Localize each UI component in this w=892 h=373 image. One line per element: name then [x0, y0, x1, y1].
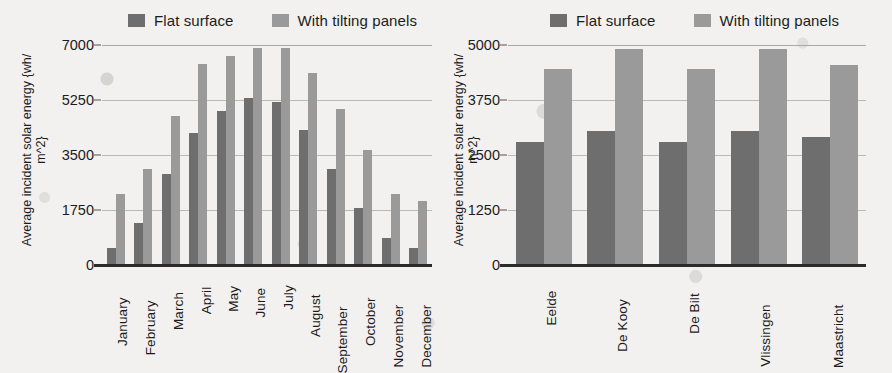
- bar: [134, 223, 143, 265]
- bar: [308, 73, 317, 265]
- bar: [731, 131, 759, 265]
- x-label-cell: July: [267, 271, 295, 357]
- legend-swatch-flat-surface: [550, 14, 567, 27]
- x-axis-label: October: [363, 297, 378, 346]
- bar: [759, 49, 787, 265]
- legend-monthly: Flat surface With tilting panels: [128, 12, 417, 29]
- plot-area-stations: 01250250037505000: [508, 45, 866, 265]
- bar: [281, 48, 290, 265]
- legend-label-with-tilting-panels: With tilting panels: [298, 12, 417, 29]
- chart-stations: Flat surface With tilting panels Average…: [446, 0, 892, 359]
- x-label-cell: April: [185, 271, 213, 357]
- x-label-cell: November: [377, 271, 405, 357]
- bar-group: [580, 45, 652, 265]
- y-tick-label: 5250: [62, 92, 94, 108]
- y-tick-mark: [94, 210, 101, 211]
- bar-group: [350, 45, 378, 265]
- legend-label-with-tilting-panels: With tilting panels: [720, 12, 839, 29]
- y-tick-label: 0: [86, 257, 94, 273]
- bar: [409, 248, 418, 265]
- x-axis-label: July: [281, 285, 296, 309]
- x-axis-line-monthly: [94, 264, 432, 267]
- bar: [418, 201, 427, 265]
- bar: [659, 142, 687, 265]
- x-label-cell: October: [350, 271, 378, 357]
- bar: [253, 48, 262, 265]
- x-axis-label: August: [308, 294, 323, 337]
- y-tick-mark: [500, 45, 507, 46]
- bar-group: [322, 45, 350, 265]
- x-axis-label: September: [336, 306, 351, 373]
- bar: [354, 208, 363, 265]
- x-axis-label: Maastricht: [830, 305, 845, 368]
- legend-item-flat-surface: Flat surface: [128, 12, 234, 29]
- x-axis-label: January: [116, 297, 131, 346]
- y-tick-mark: [500, 155, 507, 156]
- chart-monthly: Flat surface With tilting panels Average…: [0, 0, 446, 359]
- y-tick-label: 3750: [468, 92, 500, 108]
- y-tick-mark: [500, 210, 507, 211]
- bar-group: [295, 45, 323, 265]
- bar: [363, 150, 372, 265]
- y-tick-label: 7000: [62, 37, 94, 53]
- bar: [244, 98, 253, 265]
- bar-groups-monthly: [102, 45, 432, 265]
- bar: [544, 69, 572, 265]
- y-tick-label: 2500: [468, 147, 500, 163]
- x-label-cell: De Bilt: [651, 271, 723, 357]
- bar: [116, 194, 125, 265]
- bar-group: [102, 45, 130, 265]
- bar: [107, 248, 116, 265]
- x-axis-label: Eelde: [544, 291, 559, 326]
- x-axis-label: April: [198, 287, 213, 315]
- y-tick-label: 1750: [62, 202, 94, 218]
- x-axis-label: December: [418, 305, 433, 368]
- x-label-cell: December: [405, 271, 433, 357]
- x-label-cell: February: [130, 271, 158, 357]
- bar: [336, 109, 345, 265]
- x-label-cell: June: [240, 271, 268, 357]
- legend-label-flat-surface: Flat surface: [576, 12, 656, 29]
- bar: [171, 116, 180, 265]
- bar-group: [405, 45, 433, 265]
- y-tick-label: 5000: [468, 37, 500, 53]
- x-axis-label: November: [391, 305, 406, 368]
- y-tick-mark: [94, 155, 101, 156]
- bar: [516, 142, 544, 265]
- x-axis-label: June: [253, 288, 268, 318]
- bar-group: [267, 45, 295, 265]
- x-label-cell: September: [322, 271, 350, 357]
- legend-swatch-with-tilting-panels: [272, 14, 289, 27]
- y-tick-mark: [94, 100, 101, 101]
- bar-group: [185, 45, 213, 265]
- bar: [143, 169, 152, 265]
- bar: [391, 194, 400, 265]
- bar: [802, 137, 830, 265]
- legend-item-with-tilting-panels: With tilting panels: [694, 12, 839, 29]
- legend-stations: Flat surface With tilting panels: [550, 12, 839, 29]
- bar: [272, 102, 281, 265]
- x-axis-label: Vlissingen: [759, 304, 774, 367]
- x-label-cell: Maastricht: [794, 271, 866, 357]
- x-label-cell: Eelde: [508, 271, 580, 357]
- x-label-cell: Vlissingen: [723, 271, 795, 357]
- x-axis-line-stations: [500, 264, 866, 267]
- x-label-cell: January: [102, 271, 130, 357]
- x-axis-label: May: [226, 286, 241, 312]
- x-label-cell: August: [295, 271, 323, 357]
- bar: [615, 49, 643, 265]
- plot-area-monthly: 01750350052507000: [102, 45, 432, 265]
- bar: [299, 130, 308, 265]
- x-axis-label: February: [143, 300, 158, 355]
- x-axis-label: March: [171, 292, 186, 330]
- bar-group: [794, 45, 866, 265]
- bar-group: [651, 45, 723, 265]
- bar: [687, 69, 715, 265]
- legend-label-flat-surface: Flat surface: [154, 12, 234, 29]
- bar: [830, 65, 858, 265]
- x-label-cell: May: [212, 271, 240, 357]
- bar-group: [130, 45, 158, 265]
- y-axis-title-monthly: Average incident solar energy {wh/ m^2}: [20, 38, 50, 262]
- bar-groups-stations: [508, 45, 866, 265]
